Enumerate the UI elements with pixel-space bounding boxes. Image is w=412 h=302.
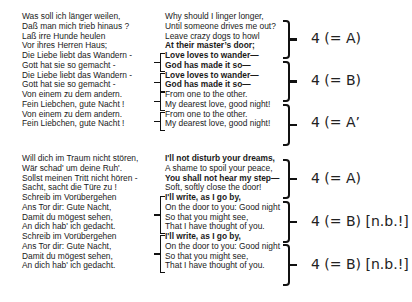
section-label: 4 (= B) bbox=[311, 72, 361, 88]
stanza1-english-text: Why should I linger longer, Until someon… bbox=[165, 12, 276, 129]
section-label: 4 (= A’ bbox=[311, 114, 360, 130]
small-brace bbox=[160, 53, 165, 72]
right-brace bbox=[283, 104, 290, 146]
right-brace bbox=[283, 244, 290, 286]
stanza2-english-text: I'll not disturb your dreams, A shame to… bbox=[165, 154, 280, 271]
small-brace bbox=[160, 196, 165, 234]
verse-line: My dearest love, good night! bbox=[165, 119, 276, 129]
small-brace bbox=[160, 92, 165, 111]
stanza1-german-text: Was soll ich länger weilen, Daß man mich… bbox=[22, 12, 132, 129]
verse-line: That I have thought of you. bbox=[165, 261, 280, 271]
verse-line: An dich hab' ich gedacht. bbox=[22, 261, 138, 271]
right-brace bbox=[283, 61, 290, 102]
small-brace bbox=[160, 235, 165, 273]
section-label: 4 (= B) [n.b.!] bbox=[311, 213, 409, 229]
section-label: 4 (= A) bbox=[311, 30, 361, 46]
right-brace bbox=[283, 201, 290, 243]
section-label: 4 (= A) bbox=[311, 170, 361, 186]
stanza2-german-text: Will dich im Traum nicht stören, Wär sch… bbox=[22, 154, 138, 271]
small-brace bbox=[160, 112, 165, 131]
section-label: 4 (= B) [n.b.!] bbox=[311, 256, 409, 272]
right-brace bbox=[283, 20, 290, 59]
right-brace bbox=[283, 159, 290, 199]
small-brace bbox=[160, 73, 165, 92]
verse-line: Fein Liebchen, gute Nacht ! bbox=[22, 119, 132, 129]
